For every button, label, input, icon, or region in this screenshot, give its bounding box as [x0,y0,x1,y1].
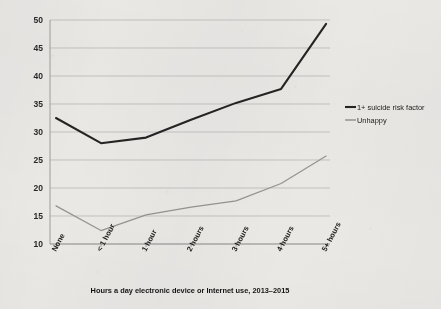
series-line-unhappy [56,156,326,230]
chart-svg: 101520253035404550 None< 1 hour1 hour2 h… [0,0,441,309]
y-axis-tick-label: 30 [34,127,44,137]
series-line-suicide-risk [56,24,326,143]
y-axis-tick-label: 10 [34,239,44,249]
legend-label-suicide-risk: 1+ suicide risk factor [357,103,425,112]
y-axis-tick-label: 25 [34,155,44,165]
x-axis-title: Hours a day electronic device or Interne… [91,286,290,295]
y-axis-tick-label-group: 101520253035404550 [34,15,44,249]
y-axis-tick-label: 45 [34,43,44,53]
gridline-group [50,20,330,244]
x-axis-category-label-group: None< 1 hour1 hour2 hours3 hours4 hours5… [50,221,343,253]
x-axis-category-label: 4 hours [275,224,296,252]
y-axis-tick-label: 15 [34,211,44,221]
legend-label-unhappy: Unhappy [357,116,387,125]
y-axis-tick-label: 40 [34,71,44,81]
x-axis-category-label: None [50,232,67,253]
x-axis-category-label: 3 hours [230,224,251,252]
x-axis-category-label: < 1 hour [95,222,117,253]
x-axis-category-label: 5+ hours [320,221,343,253]
legend: 1+ suicide risk factor Unhappy [345,103,425,125]
line-chart-figure: 101520253035404550 None< 1 hour1 hour2 h… [0,0,441,309]
y-axis-tick-label: 35 [34,99,44,109]
y-axis-tick-label: 20 [34,183,44,193]
x-axis-category-label: 1 hour [140,228,159,253]
x-axis-category-label: 2 hours [185,224,206,252]
y-axis-tick-label: 50 [34,15,44,25]
